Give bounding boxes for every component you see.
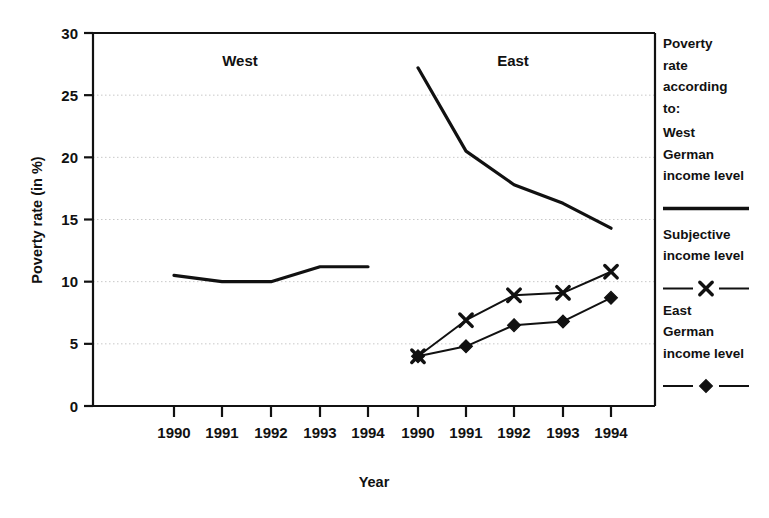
x-tick-label-east-1990: 1990 [401, 424, 434, 441]
chart-container: 051015202530 199019911992199319941990199… [0, 0, 769, 518]
legend-entry-2-label-line-2: income level [663, 346, 744, 361]
x-tick-label-east-1991: 1991 [449, 424, 482, 441]
y-tick-label-5: 5 [70, 335, 78, 352]
x-tick-label-west-1991: 1991 [205, 424, 238, 441]
y-tick-label-0: 0 [70, 398, 78, 415]
panel-title-east: East [497, 52, 529, 69]
legend-heading-line-0: Poverty [663, 36, 713, 51]
x-axis-title: Year [359, 474, 390, 490]
legend-entry-1-label-line-1: income level [663, 248, 744, 263]
legend-heading-line-3: to: [663, 101, 680, 116]
legend-entry-0-label-line-0: West [663, 125, 696, 140]
panel-title-west: West [222, 52, 258, 69]
y-tick-label-30: 30 [61, 25, 78, 42]
y-tick-label-10: 10 [61, 273, 78, 290]
x-tick-label-west-1993: 1993 [303, 424, 336, 441]
x-tick-label-west-1990: 1990 [157, 424, 190, 441]
x-tick-label-east-1993: 1993 [546, 424, 579, 441]
y-tick-label-15: 15 [61, 211, 78, 228]
legend-entry-2-label-line-0: East [663, 303, 692, 318]
poverty-rate-line-chart: 051015202530 199019911992199319941990199… [0, 0, 769, 518]
legend-heading-line-2: according [663, 79, 728, 94]
legend-entry-0-label-line-2: income level [663, 168, 744, 183]
legend-heading-line-1: rate [663, 58, 688, 73]
y-tick-label-20: 20 [61, 149, 78, 166]
legend-entry-0-label-line-1: German [663, 147, 714, 162]
y-axis-title: Poverty rate (in %) [29, 156, 45, 283]
legend-entry-1-label-line-0: Subjective [663, 227, 731, 242]
x-tick-label-east-1992: 1992 [497, 424, 530, 441]
x-tick-label-west-1994: 1994 [351, 424, 385, 441]
x-tick-label-east-1994: 1994 [594, 424, 628, 441]
legend-entry-2-label-line-1: German [663, 324, 714, 339]
y-tick-label-25: 25 [61, 87, 78, 104]
x-tick-label-west-1992: 1992 [254, 424, 287, 441]
